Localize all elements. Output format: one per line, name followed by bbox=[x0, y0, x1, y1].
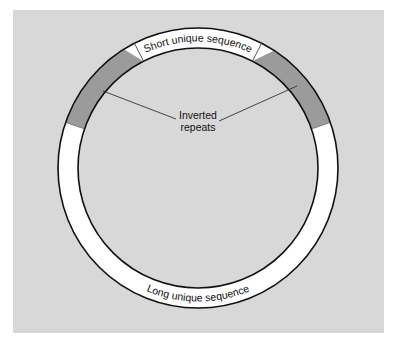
inverted-repeats-label-line1: Inverted bbox=[179, 109, 217, 121]
plastid-genome-diagram: Short unique sequence Long unique sequen… bbox=[0, 0, 398, 343]
inverted-repeats-label-line2: repeats bbox=[180, 121, 215, 133]
